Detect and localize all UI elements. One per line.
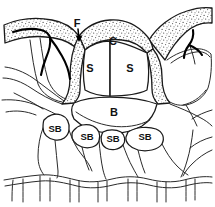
label-subsidiary-cell-4: SB xyxy=(138,131,151,142)
basal-vertical-strands xyxy=(12,176,195,202)
label-guard-cell-right: S xyxy=(126,62,133,74)
label-subsidiary-cell-2: SB xyxy=(80,131,93,142)
stomatal-complex-diagram: F C S S B SB SB SB SB xyxy=(0,0,215,207)
label-cuticular-flange: F xyxy=(74,17,81,29)
label-subsidiary-cell-3: SB xyxy=(106,133,119,144)
epidermal-cell-right-upper xyxy=(167,46,211,105)
epidermal-cell-right-lower xyxy=(170,104,212,126)
figure-root: F C S S B SB SB SB SB xyxy=(0,0,215,207)
label-substomatal-chamber: B xyxy=(110,106,118,118)
label-guard-cell-left: S xyxy=(86,62,93,74)
label-subsidiary-cell-1: SB xyxy=(48,123,61,134)
label-cuticle: C xyxy=(109,35,117,47)
